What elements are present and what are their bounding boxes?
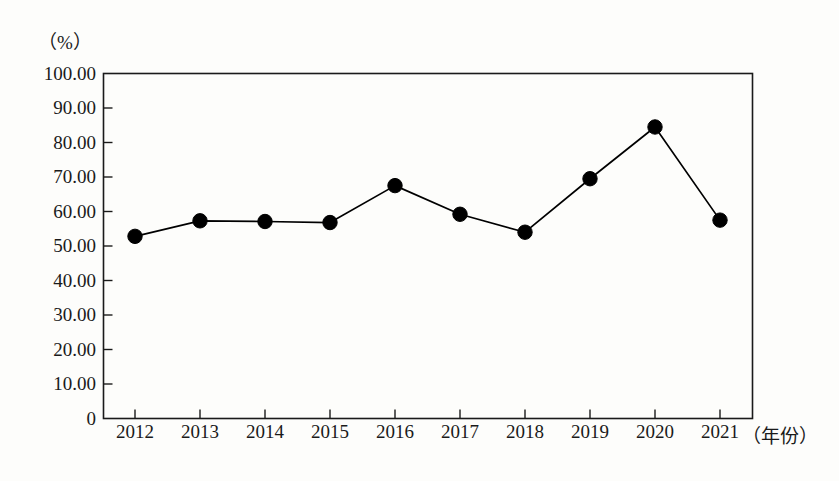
- y-axis-tick-label: 90.00: [53, 97, 96, 119]
- data-point-marker: [193, 214, 207, 228]
- x-axis-tick-label: 2018: [506, 421, 544, 443]
- data-point-marker: [388, 178, 402, 192]
- data-point-marker: [323, 215, 337, 229]
- y-axis-tick-label: 60.00: [53, 201, 96, 223]
- y-axis-tick-label: 10.00: [53, 373, 96, 395]
- x-axis-unit-label: （年份）: [742, 421, 818, 448]
- line-chart-figure: （%） 010.0020.0030.0040.0050.0060.0070.00…: [0, 0, 839, 481]
- y-axis-tick-label: 70.00: [53, 166, 96, 188]
- y-axis-tick-label: 30.00: [53, 304, 96, 326]
- x-axis-tick-label: 2016: [376, 421, 414, 443]
- x-axis-tick-label: 2012: [116, 421, 154, 443]
- x-axis-tick-label: 2013: [181, 421, 219, 443]
- y-axis-tick-label: 80.00: [53, 132, 96, 154]
- y-axis-tick-label: 100.00: [44, 63, 96, 85]
- x-axis-tick-label: 2019: [571, 421, 609, 443]
- data-point-marker: [258, 214, 272, 228]
- x-axis-tick-label: 2015: [311, 421, 349, 443]
- y-axis-tick-label: 50.00: [53, 235, 96, 257]
- x-axis-tick-label: 2014: [246, 421, 284, 443]
- data-point-marker: [583, 172, 597, 186]
- x-axis-tick-label: 2017: [441, 421, 479, 443]
- data-point-marker: [713, 213, 727, 227]
- data-series-line: [135, 127, 720, 236]
- x-axis-tick-label: 2020: [636, 421, 674, 443]
- x-axis-tick-label: 2021: [701, 421, 739, 443]
- y-axis-tick-label-group: 010.0020.0030.0040.0050.0060.0070.0080.0…: [24, 0, 96, 481]
- data-point-marker: [648, 120, 662, 134]
- y-axis-tick-label: 0: [87, 408, 97, 430]
- data-point-marker: [518, 225, 532, 239]
- plot-area: [0, 0, 839, 481]
- data-point-marker: [453, 207, 467, 221]
- y-axis-tick-label: 20.00: [53, 339, 96, 361]
- y-axis-tick-label: 40.00: [53, 270, 96, 292]
- data-point-marker: [128, 229, 142, 243]
